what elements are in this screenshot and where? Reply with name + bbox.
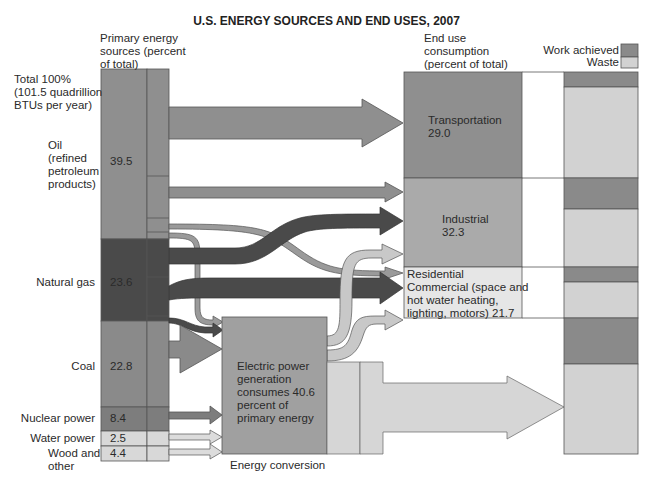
legend-work-swatch — [621, 44, 638, 57]
legend-waste-swatch — [621, 57, 638, 68]
industrial-label: Industrial 32.3 — [442, 213, 489, 239]
residential-commercial-label: Residential Commercial (space and hot wa… — [407, 268, 528, 320]
gas-to-residential-flow — [169, 272, 403, 304]
nuclear-to-electric-arrow — [169, 406, 222, 424]
oil-label: Oil (refined petroleum products) — [48, 139, 99, 191]
water-to-electric-arrow — [169, 430, 222, 444]
energy-conversion-caption: Energy conversion — [230, 459, 325, 472]
oil-source-bar — [101, 69, 147, 239]
oil-value: 39.5 — [110, 155, 132, 168]
wood-value: 4.4 — [110, 447, 126, 460]
end-use-header: End use consumption (percent of total) — [424, 32, 508, 71]
chart-title: U.S. ENERGY SOURCES AND END USES, 2007 — [0, 14, 653, 28]
electric-power-label: Electric power generation consumes 40.6 … — [237, 360, 315, 425]
wood-to-electric-arrow — [169, 444, 222, 459]
legend-waste-label: Waste — [587, 56, 619, 69]
nuclear-value: 8.4 — [110, 412, 126, 425]
electric-waste-arrow — [360, 362, 564, 454]
natural-gas-value: 23.6 — [110, 276, 132, 289]
transportation-label: Transportation 29.0 — [428, 114, 502, 140]
oil-to-transport-arrow — [169, 99, 403, 147]
oil-to-industrial-arrow — [169, 182, 403, 202]
work-waste-bar — [564, 72, 638, 454]
coal-label: Coal — [71, 360, 95, 373]
natural-gas-label: Natural gas — [36, 276, 95, 289]
primary-sources-header: Primary energy sources (percent of total… — [100, 32, 186, 71]
wood-label: Wood and other — [48, 447, 100, 473]
coal-value: 22.8 — [110, 360, 132, 373]
water-value: 2.5 — [110, 432, 126, 445]
nuclear-label: Nuclear power — [21, 412, 95, 425]
energy-flow-diagram — [0, 0, 653, 479]
water-label: Water power — [30, 432, 95, 445]
total-label: Total 100% (101.5 quadrillion BTUs per y… — [14, 73, 102, 112]
